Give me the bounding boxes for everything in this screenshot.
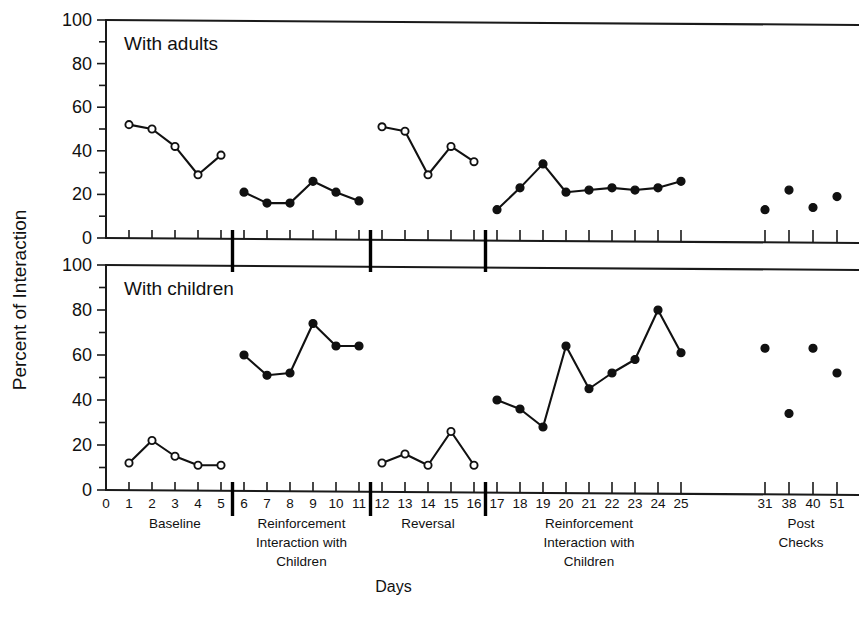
y-tick-label-with-children-20: 20 [72, 435, 92, 455]
data-point-with-adults-day-21 [585, 186, 593, 194]
data-point-with-children-day-8 [286, 369, 294, 377]
x-axis-label-day-1: 1 [125, 496, 133, 511]
x-axis-label-day-25: 25 [673, 496, 688, 511]
x-axis-label-day-17: 17 [489, 496, 504, 511]
x-axis-label-day-22: 22 [604, 496, 619, 511]
data-point-with-adults-day-9 [309, 177, 317, 185]
x-axis-label-day-19: 19 [535, 496, 550, 511]
x-axis-label-day-2: 2 [148, 496, 156, 511]
panel-title-with-children: With children [124, 278, 234, 299]
x-axis-label-day-8: 8 [286, 496, 294, 511]
phase-label-reinforcement-1: ReinforcementInteraction withChildren [256, 516, 347, 569]
data-point-with-children-day-7 [263, 371, 271, 379]
x-axis-label-day-24: 24 [650, 496, 666, 511]
phase-label-baseline-line-0: Baseline [149, 516, 201, 531]
chart-canvas: 020406080100With adults020406080100With … [0, 0, 868, 620]
x-axis-label-day-6: 6 [240, 496, 248, 511]
x-axis-with-children [106, 490, 858, 495]
x-axis-with-adults [106, 238, 858, 243]
data-point-with-children-day-18 [516, 405, 524, 413]
panel-with-children: 020406080100With children [62, 255, 858, 500]
data-point-with-adults-day-8 [286, 199, 294, 207]
series-line-with-adults-2 [382, 127, 474, 175]
series-with-adults-segment-2 [378, 123, 477, 178]
y-tick-label-with-children-0: 0 [82, 480, 92, 500]
data-point-with-adults-day-11 [355, 197, 363, 205]
phase-label-post-checks: PostChecks [778, 516, 823, 550]
data-point-with-adults-day-14 [424, 171, 431, 178]
data-point-with-adults-day-15 [447, 143, 454, 150]
data-point-with-children-day-21 [585, 385, 593, 393]
phase-label-reversal: Reversal [401, 516, 454, 531]
data-point-with-adults-day-40 [809, 204, 817, 212]
data-point-with-adults-day-19 [539, 160, 547, 168]
data-point-with-children-day-15 [447, 428, 454, 435]
x-axis-label-day-13: 13 [397, 496, 412, 511]
x-axis-label-day-16: 16 [466, 496, 481, 511]
x-axis-label-day-20: 20 [558, 496, 573, 511]
y-tick-label-with-adults-100: 100 [62, 10, 92, 30]
data-point-with-adults-day-13 [401, 128, 408, 135]
x-axis-label-day-5: 5 [217, 496, 225, 511]
data-point-with-children-day-38 [785, 410, 793, 418]
data-point-with-children-day-23 [631, 356, 639, 364]
data-point-with-children-day-3 [171, 453, 178, 460]
y-tick-label-with-children-100: 100 [62, 255, 92, 275]
x-axis-label-day-15: 15 [443, 496, 458, 511]
figure-container: 020406080100With adults020406080100With … [0, 0, 868, 620]
data-point-with-children-day-4 [194, 462, 201, 469]
x-axis-label-day-11: 11 [352, 496, 366, 511]
series-with-adults-segment-3 [493, 160, 685, 214]
data-point-with-adults-day-17 [493, 206, 501, 214]
data-point-with-adults-day-38 [785, 186, 793, 194]
data-point-with-children-day-9 [309, 320, 317, 328]
y-tick-label-with-adults-20: 20 [72, 184, 92, 204]
phase-label-reinforcement-2-line-2: Children [564, 554, 614, 569]
x-axis-label-day-12: 12 [374, 496, 389, 511]
data-point-with-children-day-17 [493, 396, 501, 404]
x-axis-label-day-31: 31 [757, 496, 772, 511]
data-point-with-children-day-31 [761, 344, 769, 352]
series-with-children-segment-1 [240, 320, 363, 380]
x-axis-label-day-21: 21 [581, 496, 596, 511]
phase-label-baseline: Baseline [149, 516, 201, 531]
y-tick-label-with-adults-80: 80 [72, 54, 92, 74]
data-point-with-adults-day-2 [148, 125, 155, 132]
y-tick-label-with-adults-0: 0 [82, 228, 92, 248]
series-line-with-children-1 [244, 324, 359, 376]
data-point-with-adults-day-12 [378, 123, 385, 130]
series-with-children-segment-2 [378, 428, 477, 469]
data-point-with-adults-day-16 [470, 158, 477, 165]
data-point-with-adults-day-1 [125, 121, 132, 128]
data-point-with-children-day-40 [809, 344, 817, 352]
data-point-with-children-day-51 [833, 369, 841, 377]
phase-label-post-checks-line-0: Post [787, 516, 814, 531]
y-axis-title: Percent of Interaction [9, 210, 30, 391]
panel-top-rule-with-children [106, 265, 858, 270]
data-point-with-adults-day-24 [654, 184, 662, 192]
data-point-with-children-day-25 [677, 349, 685, 357]
data-point-with-children-day-12 [378, 459, 385, 466]
x-axis-label-day-3: 3 [171, 496, 179, 511]
series-with-children-segment-3 [493, 306, 685, 431]
phase-label-reinforcement-1-line-2: Children [276, 554, 326, 569]
data-point-with-adults-day-23 [631, 186, 639, 194]
data-point-with-adults-day-31 [761, 206, 769, 214]
y-tick-label-with-adults-60: 60 [72, 97, 92, 117]
y-tick-label-with-children-60: 60 [72, 345, 92, 365]
data-point-with-children-day-13 [401, 450, 408, 457]
x-axis-label-day-7: 7 [263, 496, 271, 511]
data-point-with-children-day-10 [332, 342, 340, 350]
y-tick-label-with-children-80: 80 [72, 300, 92, 320]
data-point-with-children-day-5 [217, 462, 224, 469]
panel-top-rule-with-adults [106, 20, 858, 25]
series-line-with-children-3 [497, 310, 681, 427]
x-axis-title: Days [375, 578, 411, 595]
x-axis-label-day-10: 10 [328, 496, 343, 511]
x-axis-label-day-51: 51 [829, 496, 844, 511]
phase-label-reinforcement-1-line-1: Interaction with [256, 535, 347, 550]
data-point-with-adults-day-22 [608, 184, 616, 192]
y-tick-label-with-children-40: 40 [72, 390, 92, 410]
x-axis-label-day-38: 38 [781, 496, 796, 511]
series-with-children-segment-0 [125, 437, 224, 469]
